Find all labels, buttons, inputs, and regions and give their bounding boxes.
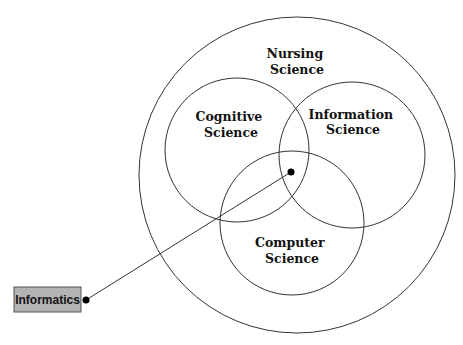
information-science-label: Information Science bbox=[309, 107, 398, 137]
intersection-dot bbox=[288, 169, 295, 176]
nursing-science-label: Nursing Science bbox=[266, 46, 327, 77]
venn-diagram: Nursing Science Cognitive Science Inform… bbox=[0, 0, 463, 345]
cognitive-science-circle bbox=[165, 78, 309, 222]
callout-dot bbox=[83, 297, 90, 304]
cognitive-science-label: Cognitive Science bbox=[196, 109, 267, 140]
computer-science-label: Computer Science bbox=[255, 235, 329, 266]
informatics-label: Informatics bbox=[15, 293, 80, 307]
information-science-circle bbox=[279, 82, 425, 228]
